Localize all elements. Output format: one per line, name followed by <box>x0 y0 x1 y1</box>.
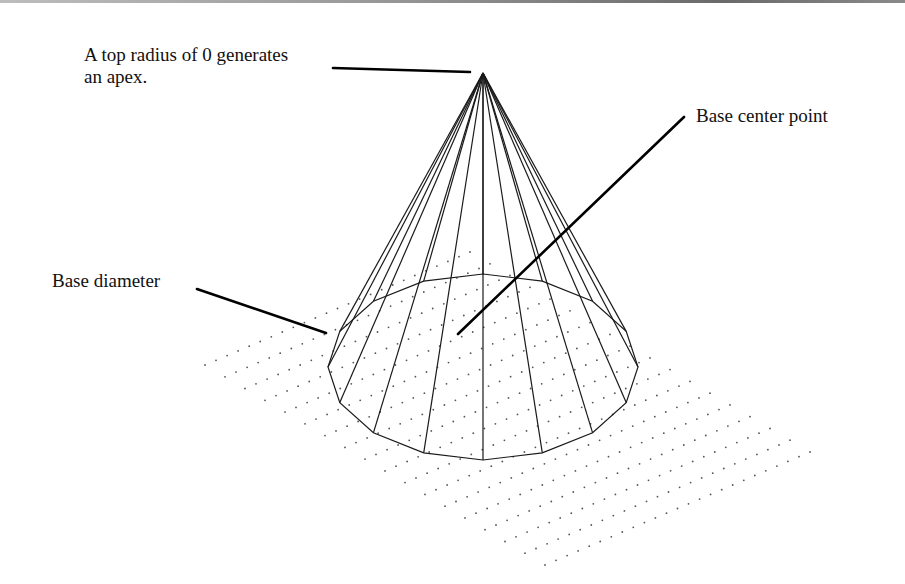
apex-label-line1: A top radius of 0 generates <box>84 44 288 66</box>
base-center-leader-line <box>458 117 684 334</box>
base-diameter-label: Base diameter <box>52 270 160 292</box>
base-center-label: Base center point <box>696 105 828 127</box>
base-diameter-leader-line <box>197 289 326 333</box>
apex-label: A top radius of 0 generates an apex. <box>84 44 288 88</box>
leader-lines <box>197 68 684 334</box>
dot-grid <box>204 251 811 566</box>
apex-leader-line <box>333 68 470 72</box>
cone-wireframe <box>328 73 638 460</box>
apex-label-line2: an apex. <box>84 66 288 88</box>
